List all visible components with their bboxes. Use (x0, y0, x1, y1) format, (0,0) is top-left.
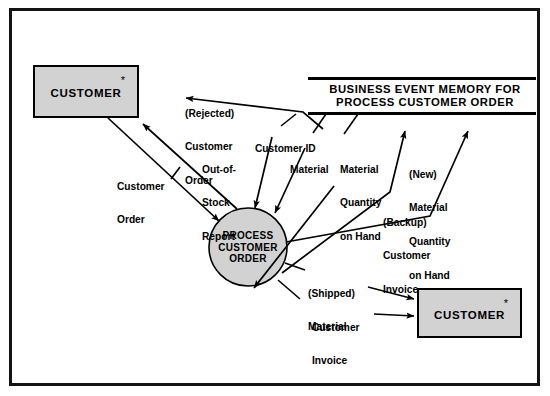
flow-label-customer-invoice: Customer Invoice (312, 299, 360, 389)
external-entity-marker-bottom: * (504, 300, 508, 306)
flow-label-backup-customer-invoice: (Backup) Customer Invoice (383, 194, 431, 318)
flow-label-backup-customer-invoice-line2: Customer (383, 250, 431, 261)
flow-label-material: Material (290, 141, 329, 197)
data-store-label: BUSINESS EVENT MEMORY FOR PROCESS CUSTOM… (310, 83, 540, 109)
flow-label-customer-invoice-line2: Invoice (312, 355, 360, 366)
external-entity-customer-top[interactable]: * CUSTOMER (33, 65, 139, 118)
diagram-canvas: * CUSTOMER * CUSTOMER PROCESS CUSTOMER O… (0, 0, 550, 396)
flow-label-rejected-customer-order-line1: (Rejected) (185, 108, 234, 119)
flow-label-out-of-stock-report-line2: Stock (202, 197, 236, 208)
flow-label-material-quantity-on-hand-line1: Material (340, 164, 381, 175)
flow-label-material-line1: Material (290, 164, 329, 175)
flow-label-out-of-stock-report: Out-of- Stock Report (202, 141, 236, 265)
data-store-label-line1: BUSINESS EVENT MEMORY FOR (310, 83, 540, 96)
external-entity-marker-top: * (121, 77, 125, 83)
flow-label-new-material-quantity-on-hand-line1: (New) (409, 169, 450, 180)
flow-label-customer-order: Customer Order (117, 158, 165, 248)
flow-label-customer-order-line2: Order (117, 214, 165, 225)
flow-label-material-quantity-on-hand-line3: on Hand (340, 231, 381, 242)
flow-label-out-of-stock-report-line1: Out-of- (202, 164, 236, 175)
flow-label-customer-order-line1: Customer (117, 181, 165, 192)
flow-label-shipped-material-line1: (Shipped) (308, 288, 355, 299)
external-entity-label-top: CUSTOMER (35, 87, 137, 99)
data-store-label-line2: PROCESS CUSTOMER ORDER (310, 96, 540, 109)
external-entity-label-bottom: CUSTOMER (419, 309, 520, 321)
flow-label-customer-invoice-line1: Customer (312, 322, 360, 333)
flow-label-material-quantity-on-hand: Material Quantity on Hand (340, 141, 381, 265)
flow-label-material-quantity-on-hand-line2: Quantity (340, 197, 381, 208)
flow-label-backup-customer-invoice-line3: Invoice (383, 284, 431, 295)
flow-label-out-of-stock-report-line3: Report (202, 231, 236, 242)
flow-label-backup-customer-invoice-line1: (Backup) (383, 217, 431, 228)
